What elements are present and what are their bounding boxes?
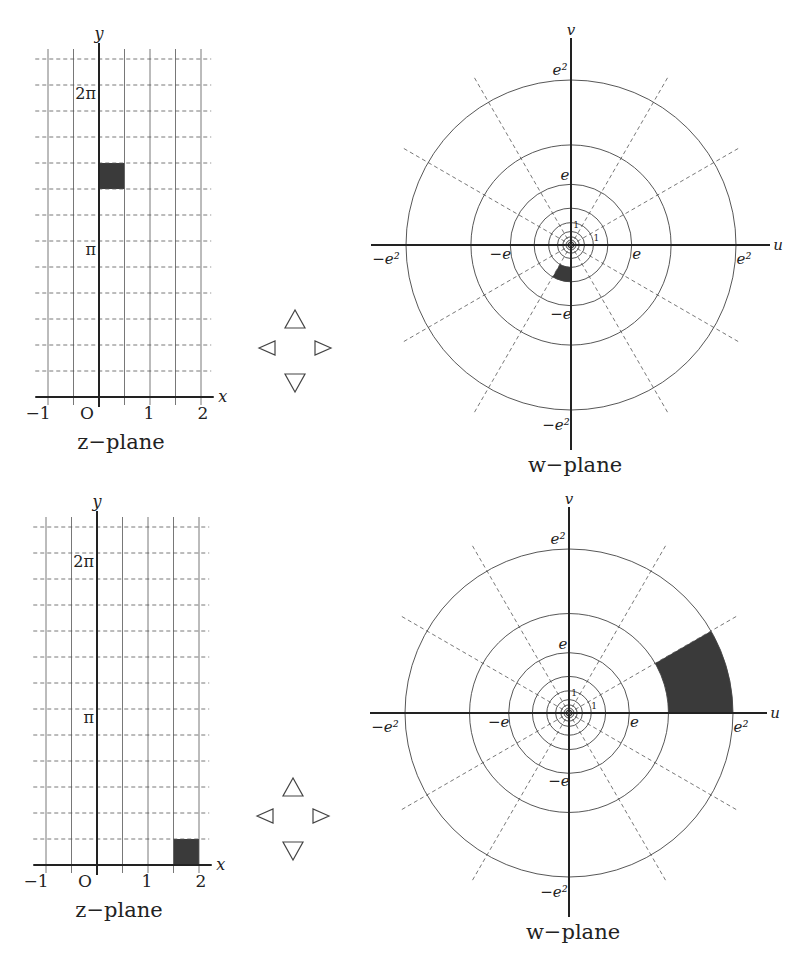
- arrow-up-icon[interactable]: [283, 778, 303, 796]
- w-plane-caption: w−plane: [528, 453, 622, 477]
- y-tick-label: 2π: [73, 552, 94, 571]
- radial-line: [472, 544, 569, 713]
- shaded-region: [99, 163, 125, 189]
- tick-label-e-squared: e²: [734, 718, 749, 736]
- radial-line: [472, 713, 569, 882]
- u-axis-label: u: [770, 704, 780, 722]
- z-plane-top: xy−1O12π2πz−plane: [25, 24, 227, 454]
- tick-label-neg-e: −e: [550, 305, 572, 323]
- x-axis-label: x: [218, 387, 227, 406]
- u-axis-label: u: [773, 236, 783, 254]
- tick-label-e: e: [559, 635, 568, 653]
- y-tick-label: π: [83, 708, 94, 727]
- conformal-map-figure: xy−1O12π2πz−planeuve²e²−e²−e²ee−e−e11w−p…: [0, 0, 812, 963]
- v-axis-label: v: [567, 21, 576, 39]
- origin-label: O: [80, 403, 94, 423]
- origin-label: O: [78, 871, 92, 891]
- arrow-down-icon[interactable]: [285, 374, 305, 392]
- tick-label-e-squared: e²: [737, 250, 752, 268]
- y-axis-label: y: [93, 24, 104, 43]
- z-plane-caption: z−plane: [77, 430, 164, 454]
- arrow-up-icon[interactable]: [285, 310, 305, 328]
- tick-label-one: 1: [573, 220, 579, 230]
- arrow-down-icon[interactable]: [283, 842, 303, 860]
- shaded-sector: [655, 631, 733, 713]
- tick-label-neg-e-squared: −e²: [540, 883, 567, 901]
- tick-label-neg-e-squared: −e²: [542, 416, 569, 434]
- z-plane-bottom: xy−1O12π2πz−plane: [23, 492, 225, 922]
- y-axis-label: y: [91, 492, 102, 511]
- arrow-left-icon[interactable]: [257, 809, 273, 823]
- y-tick-label: π: [85, 240, 96, 259]
- tick-label-neg-e: −e: [490, 245, 512, 263]
- tick-label-one: 1: [571, 688, 577, 698]
- x-tick-label: −1: [23, 871, 48, 891]
- radial-line: [571, 75, 669, 245]
- tick-label-one: 1: [591, 701, 597, 711]
- radial-line: [571, 245, 741, 343]
- v-axis-label: v: [565, 490, 574, 508]
- x-tick-label: −1: [25, 403, 50, 423]
- radial-line: [569, 713, 738, 810]
- tick-label-neg-e: −e: [488, 713, 510, 731]
- nav-arrows-top: [259, 310, 331, 392]
- tick-label-e-squared: e²: [551, 530, 566, 548]
- w-plane-top: uve²e²−e²−e²ee−e−e11w−plane: [371, 21, 783, 477]
- radial-line: [571, 245, 669, 415]
- x-tick-label: 1: [144, 403, 155, 423]
- tick-label-one: 1: [593, 233, 599, 243]
- z-plane-caption: z−plane: [75, 898, 162, 922]
- radial-line: [401, 245, 571, 343]
- radial-line: [569, 544, 666, 713]
- radial-line: [571, 147, 741, 245]
- tick-label-e: e: [632, 245, 641, 263]
- tick-label-e: e: [561, 166, 570, 184]
- x-axis-label: x: [216, 855, 225, 874]
- y-tick-label: 2π: [75, 84, 96, 103]
- shaded-region: [174, 839, 200, 865]
- tick-label-e: e: [630, 713, 639, 731]
- radial-line: [400, 713, 569, 810]
- w-plane-caption: w−plane: [526, 920, 620, 944]
- tick-label-e-squared: e²: [553, 61, 568, 79]
- x-tick-label: 2: [196, 871, 207, 891]
- radial-line: [473, 245, 571, 415]
- tick-label-neg-e-squared: −e²: [371, 718, 398, 736]
- x-tick-label: 1: [142, 871, 153, 891]
- arrow-left-icon[interactable]: [259, 341, 275, 355]
- radial-line: [401, 147, 571, 245]
- x-tick-label: 2: [198, 403, 209, 423]
- radial-line: [400, 616, 569, 713]
- arrow-right-icon[interactable]: [315, 341, 331, 355]
- w-plane-bottom: uve²e²−e²−e²ee−e−e11w−plane: [370, 490, 780, 944]
- tick-label-neg-e: −e: [548, 772, 570, 790]
- arrow-right-icon[interactable]: [313, 809, 329, 823]
- radial-line: [569, 713, 666, 882]
- nav-arrows-bottom: [257, 778, 329, 860]
- radial-line: [473, 75, 571, 245]
- tick-label-neg-e-squared: −e²: [372, 250, 399, 268]
